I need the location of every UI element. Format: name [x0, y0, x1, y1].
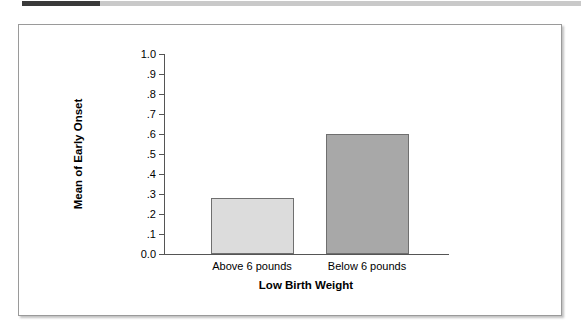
top-rule-accent	[22, 1, 100, 6]
y-tick-mark	[159, 174, 164, 175]
y-tick-mark	[159, 194, 164, 195]
y-tick-mark	[159, 134, 164, 135]
y-tick-label: 0.0	[141, 248, 156, 260]
y-tick-mark	[159, 94, 164, 95]
y-tick-label: .2	[147, 208, 156, 220]
y-tick-label: .8	[147, 88, 156, 100]
plot-area: 1.0 .9 .8 .7 .6 .5 .4 .3	[164, 54, 449, 254]
x-tick-label-above: Above 6 pounds	[212, 260, 292, 272]
x-tick-label-below: Below 6 pounds	[328, 260, 406, 272]
x-axis-line	[164, 254, 449, 255]
y-tick-mark	[159, 114, 164, 115]
y-tick-label: .3	[147, 188, 156, 200]
y-tick-mark	[159, 154, 164, 155]
bar-below-6-pounds[interactable]	[326, 134, 409, 254]
y-tick-label: .4	[147, 168, 156, 180]
y-axis-title: Mean of Early Onset	[72, 99, 84, 210]
top-rule	[22, 1, 581, 6]
y-tick-mark	[159, 234, 164, 235]
y-tick-label: 1.0	[141, 48, 156, 60]
y-tick-mark	[159, 74, 164, 75]
y-axis-line	[164, 54, 165, 254]
y-tick-label: .9	[147, 68, 156, 80]
y-tick-label: .6	[147, 128, 156, 140]
y-tick-label: .5	[147, 148, 156, 160]
y-tick-label: .1	[147, 228, 156, 240]
figure-frame: 1.0 .9 .8 .7 .6 .5 .4 .3	[18, 24, 562, 316]
y-tick-label: .7	[147, 108, 156, 120]
y-tick-mark	[159, 214, 164, 215]
bar-above-6-pounds[interactable]	[211, 198, 294, 254]
x-axis-title: Low Birth Weight	[259, 279, 353, 291]
y-tick-mark	[159, 254, 164, 255]
y-tick-mark	[159, 54, 164, 55]
